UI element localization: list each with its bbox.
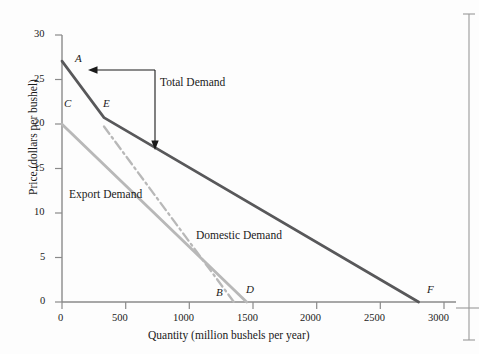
x-tick-label-1000: 1000 (173, 313, 194, 324)
x-tick-label-2000: 2000 (300, 313, 321, 324)
x-axis-title: Quantity (million bushels per year) (148, 330, 310, 342)
axis-lines (62, 35, 456, 302)
y-tick-label-5: 5 (40, 252, 45, 263)
y-axis-ticks (55, 35, 62, 302)
domestic-demand-label: Domestic Demand (196, 230, 282, 242)
callout-arrow-left (88, 66, 98, 73)
total-demand-label: Total Demand (160, 77, 225, 89)
x-tick-label-0: 0 (58, 313, 63, 324)
x-tick-label-3000: 3000 (428, 313, 449, 324)
x-tick-label-500: 500 (112, 313, 128, 324)
y-tick-label-30: 30 (34, 29, 45, 40)
figure-canvas: 0 5 10 15 20 25 30 0 500 1000 1500 2000 … (0, 0, 479, 354)
point-label-d: D (246, 284, 254, 295)
x-tick-label-1500: 1500 (237, 313, 258, 324)
domestic-demand-line (104, 127, 234, 303)
y-axis-title: Price (dollars per bushel) (27, 79, 39, 195)
y-axis-title-wrapper: Price (dollars per bushel) (23, 57, 41, 217)
point-label-a: A (75, 53, 82, 64)
total-demand-line (62, 61, 419, 302)
point-label-b: B (216, 287, 223, 298)
page-bracket (456, 14, 479, 340)
point-label-f: F (427, 284, 434, 295)
export-demand-label: Export Demand (69, 189, 142, 201)
point-label-c: C (64, 98, 71, 109)
x-axis-ticks (62, 302, 444, 309)
y-tick-label-0: 0 (40, 296, 45, 307)
point-label-e: E (103, 98, 110, 109)
x-tick-label-2500: 2500 (364, 313, 385, 324)
chart-plot-area (0, 0, 479, 354)
export-demand-line (62, 124, 247, 302)
